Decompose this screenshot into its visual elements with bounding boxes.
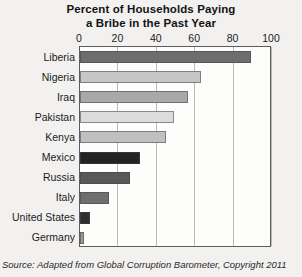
x-tick-label-40: 40 [150,32,162,45]
bar-nigeria [80,71,201,83]
plot-area [79,46,271,247]
source-work-title: Global Corruption Barometer [97,259,218,270]
bar-row [80,208,270,228]
source-prefix: Source: Adapted from [2,259,97,270]
bar-russia [80,172,130,184]
bar-row [80,87,270,107]
bar-pakistan [80,111,174,123]
bar-chart-figure: Percent of Households Paying a Bribe in … [0,0,302,277]
x-axis-tick-labels: 020406080100 [79,32,271,46]
bar-germany [80,232,84,244]
x-tick-label-80: 80 [227,32,239,45]
bar-row [80,47,270,67]
chart-title-line-1: Percent of Households Paying [0,2,302,16]
bar-row [80,127,270,147]
bar-row [80,228,270,248]
category-label-united-states: United States [0,211,75,223]
category-label-liberia: Liberia [0,51,75,63]
x-tick-label-0: 0 [76,32,82,45]
gridline-100 [271,47,272,246]
chart-title: Percent of Households Paying a Bribe in … [0,2,302,30]
bar-iraq [80,91,188,103]
bar-kenya [80,131,166,143]
category-label-pakistan: Pakistan [0,111,75,123]
bar-mexico [80,152,140,164]
x-tick-label-100: 100 [262,32,280,45]
x-tick-label-60: 60 [188,32,200,45]
bar-liberia [80,51,251,63]
bar-row [80,168,270,188]
category-label-iraq: Iraq [0,91,75,103]
category-label-kenya: Kenya [0,131,75,143]
source-caption: Source: Adapted from Global Corruption B… [2,259,302,271]
category-label-nigeria: Nigeria [0,71,75,83]
bar-united-states [80,212,90,224]
bar-row [80,148,270,168]
category-label-russia: Russia [0,171,75,183]
y-axis-category-labels: LiberiaNigeriaIraqPakistanKenyaMexicoRus… [0,46,75,247]
category-label-germany: Germany [0,231,75,243]
chart-title-line-2: a Bribe in the Past Year [0,16,302,30]
bar-row [80,67,270,87]
bar-italy [80,192,109,204]
bars-layer [80,47,270,246]
category-label-italy: Italy [0,191,75,203]
bar-row [80,107,270,127]
x-tick-label-20: 20 [112,32,124,45]
source-suffix: , Copyright 2011 [218,259,287,270]
bar-row [80,188,270,208]
category-label-mexico: Mexico [0,151,75,163]
